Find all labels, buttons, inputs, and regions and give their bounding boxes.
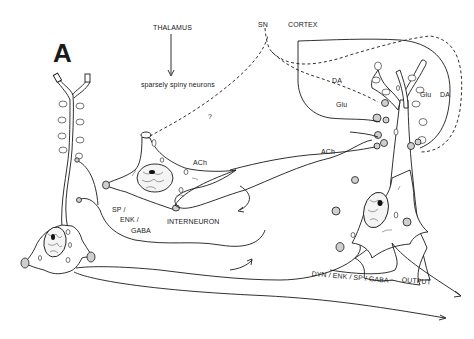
sparsely-spiny-neurons-label: sparsely spiny neurons <box>141 81 215 88</box>
interneuron-cell <box>103 132 373 212</box>
sn-label: SN <box>258 21 268 28</box>
glu-label-upper: Glu <box>336 101 347 108</box>
thalamus-arrow <box>168 34 174 76</box>
cortex-label: CORTEX <box>288 21 318 28</box>
right-spiny-neuron <box>355 60 430 285</box>
glu-label-right: Glu <box>420 91 431 98</box>
thalamus-label: THALAMUS <box>153 24 192 31</box>
interneuron-label: INTERNEURON <box>167 218 219 225</box>
left-spiny-neuron <box>21 73 100 274</box>
output-axons <box>330 243 461 320</box>
panel-label: A <box>53 40 72 66</box>
ach-label-axon: ACh <box>321 148 335 155</box>
ach-label-interneuron: ACh <box>193 159 207 166</box>
collateral-enk-label: ENK / <box>120 216 139 223</box>
collateral-gaba-label: GABA <box>131 227 151 234</box>
loop-arrow <box>230 259 252 270</box>
question-mark-label: ? <box>208 113 212 120</box>
collateral-sp-label: SP / <box>112 206 126 213</box>
da-label-upper: DA <box>332 77 342 84</box>
da-label-right: DA <box>440 91 450 98</box>
